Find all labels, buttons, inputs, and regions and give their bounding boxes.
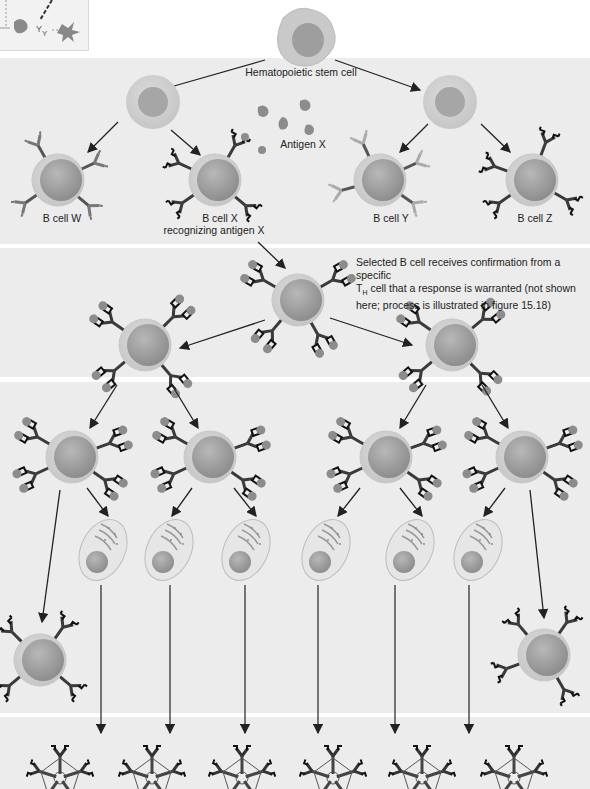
antibody-pentamer-3 <box>209 746 275 789</box>
hematopoietic-stem-cell <box>277 8 335 66</box>
plasma-cell-2 <box>136 512 203 589</box>
label-stem-cell: Hematopoietic stem cell <box>245 66 356 78</box>
label-antigen-x: Antigen X <box>280 138 326 150</box>
plasma-cell-5 <box>377 512 444 589</box>
note-line-2: TH cell that a response is warranted (no… <box>356 282 590 299</box>
expanded-clone-2 <box>149 415 272 502</box>
memory-b-cell-left <box>0 611 87 702</box>
note-line-2-text: cell that a response is warranted (not s… <box>367 282 575 294</box>
progenitor-cell-right <box>423 75 477 129</box>
b-cell-y <box>328 130 430 217</box>
note-line-3: here; process is illustrated in figure 1… <box>356 299 590 312</box>
plasma-cell-3 <box>213 512 280 589</box>
antibody-pentamer-5 <box>389 746 455 789</box>
b-cell-x <box>163 129 266 222</box>
label-b-cell-x-subtitle: recognizing antigen X <box>164 224 265 236</box>
note-line-1: Selected B cell receives confirmation fr… <box>356 256 590 282</box>
plasma-cell-6 <box>445 512 512 589</box>
memory-b-cell-right <box>491 606 583 706</box>
plasma-cell-1 <box>70 512 137 589</box>
antibody-pentamer-4 <box>300 746 366 789</box>
progenitor-cell-left <box>126 75 180 129</box>
label-b-cell-z: B cell Z <box>517 212 552 224</box>
b-cell-w <box>11 131 108 219</box>
b-cell-clonal-selection-diagram <box>0 0 590 789</box>
antibody-pentamer-2 <box>119 746 185 789</box>
antigen-x-particles <box>258 99 314 135</box>
antibody-pentamer-1 <box>27 746 93 789</box>
th-confirmation-note: Selected B cell receives confirmation fr… <box>356 256 590 312</box>
selected-b-cell-x <box>238 258 357 359</box>
b-cell-z <box>479 127 583 219</box>
expanded-clone-3 <box>325 415 448 502</box>
label-b-cell-x: B cell X <box>202 212 238 224</box>
antibody-pentamer-6 <box>481 746 547 789</box>
label-b-cell-w: B cell W <box>43 212 82 224</box>
label-b-cell-y: B cell Y <box>373 212 408 224</box>
plasma-cell-4 <box>293 512 360 589</box>
clone-cell-left <box>87 293 197 400</box>
expanded-clone-1 <box>11 415 134 502</box>
expanded-clone-4 <box>461 415 584 502</box>
